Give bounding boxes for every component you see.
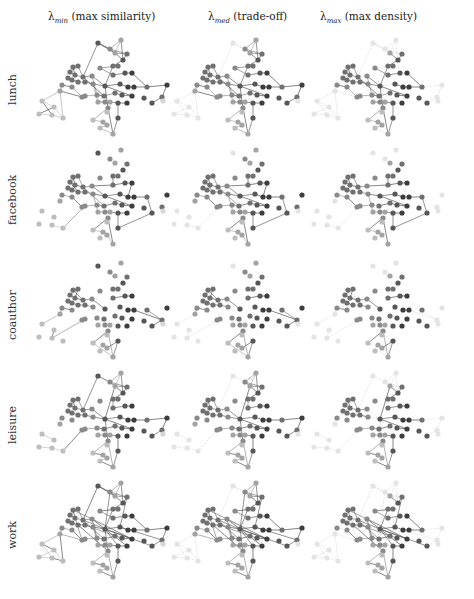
network-node <box>102 99 107 104</box>
network-node <box>194 82 199 87</box>
network-node <box>260 84 265 89</box>
network-node <box>350 63 355 68</box>
network-node <box>344 187 349 192</box>
network-node <box>192 311 197 316</box>
network-node <box>250 506 255 511</box>
network-node <box>125 84 130 89</box>
network-node <box>120 390 125 395</box>
network-node <box>416 318 421 323</box>
network-node <box>239 345 244 350</box>
network-node <box>344 84 349 89</box>
network-node <box>365 227 370 232</box>
network-node <box>237 83 242 88</box>
network-node <box>119 202 124 207</box>
network-node <box>129 426 134 431</box>
network-node <box>119 315 124 320</box>
network-node <box>72 72 77 77</box>
network-node <box>125 194 130 199</box>
network-edge <box>422 528 442 530</box>
network-node <box>129 93 134 98</box>
network-node <box>117 414 122 419</box>
network-node <box>377 542 382 547</box>
network-node <box>364 183 369 188</box>
network-node <box>376 316 381 321</box>
network-edge <box>422 418 442 420</box>
network-node <box>101 203 106 208</box>
network-panel-work-min <box>35 478 175 588</box>
network-node <box>69 520 74 525</box>
network-node <box>242 269 247 274</box>
network-node <box>186 437 191 442</box>
network-node <box>79 427 84 432</box>
network-node <box>424 323 429 328</box>
network-node <box>345 174 350 179</box>
network-node <box>90 340 95 345</box>
network-node <box>110 464 115 469</box>
network-node <box>112 273 117 278</box>
network-node <box>390 173 395 178</box>
row-label-leisure: leisure <box>6 390 28 460</box>
network-node <box>225 81 230 86</box>
network-node <box>237 306 242 311</box>
network-node <box>49 335 54 340</box>
column-title-min: λmin (max similarity) <box>48 10 155 25</box>
network-node <box>95 432 100 437</box>
network-node <box>90 414 95 419</box>
network-node <box>119 92 124 97</box>
network-node <box>171 444 176 449</box>
network-node <box>406 307 411 312</box>
network-node <box>400 417 405 422</box>
network-node <box>129 513 134 518</box>
network-node <box>435 541 440 546</box>
network-node <box>299 192 304 197</box>
network-panel-leisure-max <box>310 368 450 478</box>
network-node <box>385 72 390 77</box>
network-node <box>355 74 360 79</box>
network-node <box>253 260 258 265</box>
network-node <box>110 182 115 187</box>
network-edge <box>282 85 302 87</box>
network-node <box>110 506 115 511</box>
network-edge <box>396 483 398 503</box>
network-node <box>69 84 74 89</box>
network-node <box>406 417 411 422</box>
network-node <box>75 63 80 68</box>
network-node <box>264 316 269 321</box>
network-node <box>174 431 179 436</box>
network-node <box>115 338 120 343</box>
network-node <box>406 527 411 532</box>
network-node <box>326 214 331 219</box>
network-node <box>284 543 289 548</box>
network-node <box>69 527 74 532</box>
network-node <box>72 515 77 520</box>
network-node <box>232 175 237 180</box>
network-node <box>370 150 375 155</box>
network-node <box>101 536 106 541</box>
network-node <box>257 70 262 75</box>
network-node <box>69 187 74 192</box>
network-node <box>377 306 382 311</box>
network-node <box>257 513 262 518</box>
network-node <box>399 433 404 438</box>
network-node <box>264 293 269 298</box>
network-node <box>237 99 242 104</box>
network-node <box>210 396 215 401</box>
network-node <box>372 235 377 240</box>
network-node <box>89 516 94 521</box>
network-node <box>95 322 100 327</box>
network-node <box>110 574 115 579</box>
network-node <box>279 527 284 532</box>
network-edge <box>118 213 152 228</box>
network-node <box>370 542 375 547</box>
network-edge <box>42 314 60 324</box>
network-node <box>215 407 220 412</box>
network-node <box>247 533 252 538</box>
network-node <box>107 269 112 274</box>
network-node <box>254 315 259 320</box>
network-node <box>204 410 209 415</box>
network-node <box>207 515 212 520</box>
network-node <box>350 396 355 401</box>
network-node <box>60 558 65 563</box>
network-node <box>95 40 100 45</box>
row-label-coauthor: coauthor <box>6 280 28 350</box>
